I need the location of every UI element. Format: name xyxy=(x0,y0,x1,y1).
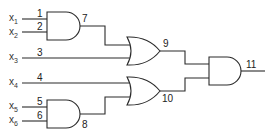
wire-label-2: 2 xyxy=(37,21,43,32)
wire-9 xyxy=(160,51,209,64)
or-gate-10 xyxy=(127,77,160,105)
wire-label-5: 5 xyxy=(37,96,43,107)
and-gate-7 xyxy=(47,12,80,40)
gate-label-11: 11 xyxy=(246,59,257,70)
and-gate-11 xyxy=(209,57,241,85)
wire-10 xyxy=(160,78,209,91)
gate-label-7: 7 xyxy=(82,13,88,24)
input-x3-label: x3 xyxy=(9,51,18,64)
logic-circuit-diagram: x1 x2 x3 x4 x5 x6 1 2 3 4 5 6 7 8 9 10 1… xyxy=(0,0,274,136)
gate-label-10: 10 xyxy=(162,93,174,104)
wire-label-3: 3 xyxy=(37,47,43,58)
wire-label-4: 4 xyxy=(37,72,43,83)
or-gate-9 xyxy=(127,37,160,65)
wire-label-1: 1 xyxy=(37,8,43,19)
gate-label-9: 9 xyxy=(163,38,169,49)
input-x2-label: x2 xyxy=(9,26,18,39)
and-gate-8 xyxy=(47,100,80,128)
input-x4-label: x4 xyxy=(9,76,18,89)
input-x6-label: x6 xyxy=(9,114,18,127)
gate-label-8: 8 xyxy=(82,119,88,130)
wire-8 xyxy=(80,97,130,114)
input-x5-label: x5 xyxy=(9,100,18,113)
wire-7 xyxy=(80,26,130,45)
input-x1-label: x1 xyxy=(9,12,18,25)
wire-label-6: 6 xyxy=(37,110,43,121)
